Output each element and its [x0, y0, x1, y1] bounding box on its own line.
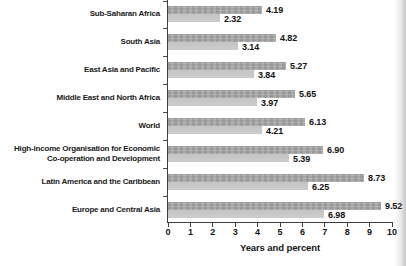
category-label: Middle East and North Africa [0, 84, 162, 112]
x-axis-title: Years and percent [168, 242, 392, 254]
value-label-lower: 4.21 [266, 126, 283, 136]
bar-lower [168, 210, 324, 218]
bar-upper [168, 174, 364, 182]
x-axis-tick-label: 4 [248, 227, 268, 238]
bar-lower [168, 70, 254, 78]
category-label: Latin America and the Caribbean [0, 168, 162, 196]
bar-upper [168, 6, 262, 14]
value-label-upper: 5.27 [290, 61, 307, 71]
value-label-upper: 5.65 [299, 89, 316, 99]
value-label-upper: 6.90 [327, 145, 344, 155]
category-tick [163, 28, 167, 29]
category-label: Europe and Central Asia [0, 196, 162, 224]
value-label-upper: 9.52 [385, 201, 402, 211]
category-label-line: Europe and Central Asia [72, 205, 160, 215]
bar-lower [168, 182, 308, 190]
grouped-bar-chart: Sub-Saharan Africa4.192.32South Asia4.82… [0, 0, 406, 266]
value-label-lower: 6.25 [312, 182, 329, 192]
category-tick [163, 1, 167, 2]
x-axis-tick-label: 5 [270, 227, 290, 238]
category-tick [163, 140, 167, 141]
category-tick [163, 196, 167, 197]
category-tick [163, 112, 167, 113]
category-label: Sub-Saharan Africa [0, 0, 162, 28]
x-axis-tick-label: 7 [315, 227, 335, 238]
x-axis-tick-label: 8 [337, 227, 357, 238]
value-label-lower: 2.32 [224, 14, 241, 24]
value-label-upper: 4.82 [280, 33, 297, 43]
x-axis-tick-label: 10 [382, 227, 402, 238]
value-label-upper: 4.19 [266, 5, 283, 15]
value-label-upper: 8.73 [368, 173, 385, 183]
category-label: South Asia [0, 28, 162, 56]
x-axis-tick-label: 9 [360, 227, 380, 238]
category-label: World [0, 112, 162, 140]
category-label-line: Sub-Saharan Africa [90, 9, 160, 19]
x-axis-tick-label: 1 [180, 227, 200, 238]
bar-upper [168, 62, 286, 70]
x-axis-tick-label: 3 [225, 227, 245, 238]
x-axis-tick-label: 0 [158, 227, 178, 238]
value-label-lower: 5.39 [293, 154, 310, 164]
value-label-upper: 6.13 [309, 117, 326, 127]
category-label-line: Middle East and North Africa [57, 93, 160, 103]
bar-upper [168, 90, 295, 98]
bar-upper [168, 146, 323, 154]
bar-upper [168, 34, 276, 42]
bar-upper [168, 118, 305, 126]
bar-upper [168, 202, 381, 210]
category-label-line: South Asia [121, 37, 161, 47]
bar-lower [168, 98, 257, 106]
category-label-line: Co-operation and Development [47, 154, 160, 164]
bar-lower [168, 14, 220, 22]
x-axis-tick-label: 6 [292, 227, 312, 238]
category-label-line: High-income Organisation for Economic [14, 144, 160, 154]
category-tick [163, 168, 167, 169]
bar-lower [168, 126, 262, 134]
x-axis-tick-label: 2 [203, 227, 223, 238]
value-label-lower: 3.97 [261, 98, 278, 108]
category-tick [163, 84, 167, 85]
category-label-line: East Asia and Pacific [84, 65, 160, 75]
bar-lower [168, 154, 289, 162]
category-label-line: World [138, 121, 160, 131]
value-label-lower: 3.14 [242, 42, 259, 52]
category-label: East Asia and Pacific [0, 56, 162, 84]
bar-lower [168, 42, 238, 50]
category-label: High-income Organisation for EconomicCo-… [0, 140, 162, 168]
value-label-lower: 3.84 [258, 70, 275, 80]
value-label-lower: 6.98 [328, 210, 345, 220]
category-tick [163, 56, 167, 57]
category-label-line: Latin America and the Caribbean [42, 177, 160, 187]
